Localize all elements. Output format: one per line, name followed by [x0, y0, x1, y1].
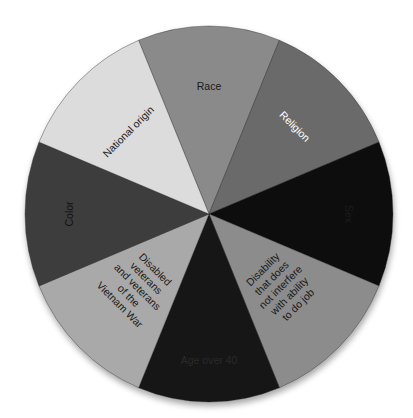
slice-label: Color [63, 201, 75, 227]
slice-label: Age over 40 [181, 354, 238, 366]
protected-classes-wheel: RaceReligionSexDisabilitythat doesnot in… [0, 0, 413, 418]
slice-label: Sex [343, 205, 355, 224]
slice-label: Race [197, 80, 222, 92]
